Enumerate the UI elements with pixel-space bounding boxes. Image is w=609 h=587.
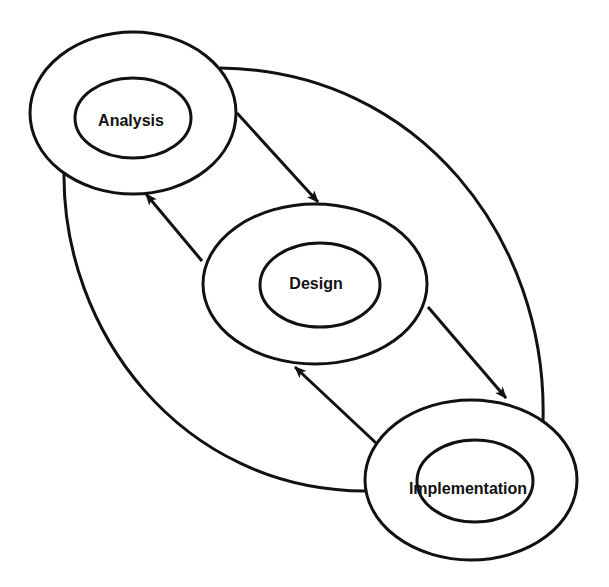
design-label: Design xyxy=(289,275,342,292)
node-analysis: Analysis xyxy=(30,32,236,194)
process-diagram: Analysis Design Implementation xyxy=(0,0,609,587)
arrow-implementation-to-design xyxy=(295,367,376,443)
node-implementation: Implementation xyxy=(365,400,577,560)
arrow-design-to-analysis xyxy=(146,194,202,261)
analysis-label: Analysis xyxy=(98,112,164,129)
implementation-label: Implementation xyxy=(409,480,527,497)
node-design: Design xyxy=(203,204,427,364)
arrow-analysis-to-design xyxy=(237,113,318,202)
arrow-design-to-implementation xyxy=(428,307,506,398)
